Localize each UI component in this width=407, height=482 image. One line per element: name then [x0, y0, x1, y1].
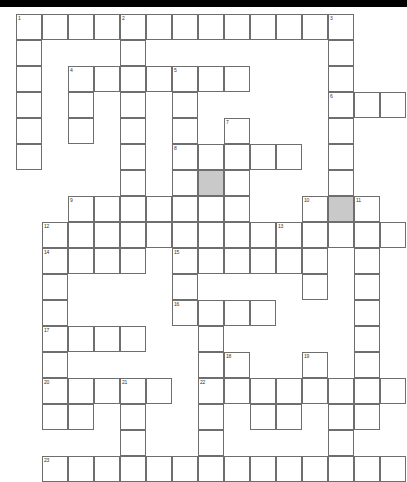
crossword-cell[interactable]: [302, 14, 328, 40]
crossword-cell[interactable]: [328, 144, 354, 170]
crossword-cell-7[interactable]: 7: [224, 118, 250, 144]
crossword-cell[interactable]: [198, 300, 224, 326]
crossword-cell[interactable]: [250, 14, 276, 40]
crossword-cell[interactable]: [302, 248, 328, 274]
crossword-cell[interactable]: [198, 170, 224, 196]
crossword-cell-23[interactable]: 23: [42, 456, 68, 482]
crossword-cell[interactable]: [94, 378, 120, 404]
crossword-cell[interactable]: [120, 40, 146, 66]
crossword-cell[interactable]: [198, 248, 224, 274]
crossword-cell-12[interactable]: 12: [42, 222, 68, 248]
crossword-cell[interactable]: [380, 378, 406, 404]
crossword-cell[interactable]: [380, 456, 406, 482]
crossword-cell[interactable]: [120, 170, 146, 196]
crossword-cell[interactable]: [328, 40, 354, 66]
crossword-cell[interactable]: [224, 248, 250, 274]
crossword-cell[interactable]: [94, 66, 120, 92]
crossword-cell[interactable]: [146, 196, 172, 222]
crossword-cell[interactable]: [354, 404, 380, 430]
crossword-cell[interactable]: [146, 14, 172, 40]
crossword-cell[interactable]: [120, 456, 146, 482]
crossword-cell[interactable]: [94, 222, 120, 248]
crossword-cell[interactable]: [172, 170, 198, 196]
crossword-cell[interactable]: [120, 196, 146, 222]
crossword-cell[interactable]: [198, 352, 224, 378]
crossword-cell[interactable]: [302, 274, 328, 300]
crossword-cell[interactable]: [276, 248, 302, 274]
crossword-cell[interactable]: [94, 196, 120, 222]
crossword-cell[interactable]: [120, 404, 146, 430]
crossword-cell[interactable]: [198, 196, 224, 222]
crossword-cell[interactable]: [198, 404, 224, 430]
crossword-cell[interactable]: [68, 248, 94, 274]
crossword-cell-14[interactable]: 14: [42, 248, 68, 274]
crossword-cell[interactable]: [16, 66, 42, 92]
crossword-cell[interactable]: [146, 456, 172, 482]
crossword-cell[interactable]: [146, 378, 172, 404]
crossword-cell-20[interactable]: 20: [42, 378, 68, 404]
crossword-cell-2[interactable]: 2: [120, 14, 146, 40]
crossword-cell[interactable]: [380, 222, 406, 248]
crossword-cell-8[interactable]: 8: [172, 144, 198, 170]
crossword-cell[interactable]: [354, 378, 380, 404]
crossword-cell[interactable]: [68, 326, 94, 352]
crossword-cell[interactable]: [328, 430, 354, 456]
crossword-cell[interactable]: [276, 144, 302, 170]
crossword-cell[interactable]: [120, 430, 146, 456]
crossword-cell[interactable]: [250, 300, 276, 326]
crossword-cell[interactable]: [354, 300, 380, 326]
crossword-cell[interactable]: [354, 248, 380, 274]
crossword-cell[interactable]: [42, 274, 68, 300]
crossword-cell[interactable]: [354, 456, 380, 482]
crossword-cell[interactable]: [94, 14, 120, 40]
crossword-cell[interactable]: [172, 196, 198, 222]
crossword-cell-9[interactable]: 9: [68, 196, 94, 222]
crossword-cell-21[interactable]: 21: [120, 378, 146, 404]
crossword-cell[interactable]: [94, 326, 120, 352]
crossword-cell[interactable]: [276, 404, 302, 430]
crossword-cell-18[interactable]: 18: [224, 352, 250, 378]
crossword-cell[interactable]: [250, 456, 276, 482]
crossword-cell-6[interactable]: 6: [328, 92, 354, 118]
crossword-cell[interactable]: [302, 456, 328, 482]
crossword-cell[interactable]: [224, 170, 250, 196]
crossword-cell[interactable]: [328, 456, 354, 482]
crossword-cell[interactable]: [302, 378, 328, 404]
crossword-cell[interactable]: [120, 326, 146, 352]
crossword-cell[interactable]: [68, 404, 94, 430]
crossword-cell[interactable]: [198, 326, 224, 352]
crossword-cell[interactable]: [120, 248, 146, 274]
crossword-cell[interactable]: [276, 378, 302, 404]
crossword-cell[interactable]: [42, 300, 68, 326]
crossword-cell[interactable]: [276, 14, 302, 40]
crossword-cell[interactable]: [250, 248, 276, 274]
crossword-cell[interactable]: [224, 300, 250, 326]
crossword-cell[interactable]: [328, 222, 354, 248]
crossword-cell[interactable]: [224, 378, 250, 404]
crossword-cell-3[interactable]: 3: [328, 14, 354, 40]
crossword-cell[interactable]: [224, 144, 250, 170]
crossword-cell-1[interactable]: 1: [16, 14, 42, 40]
crossword-cell[interactable]: [68, 456, 94, 482]
crossword-cell[interactable]: [68, 14, 94, 40]
crossword-cell[interactable]: [224, 66, 250, 92]
crossword-cell[interactable]: [328, 196, 354, 222]
crossword-cell[interactable]: [120, 118, 146, 144]
crossword-cell[interactable]: [250, 378, 276, 404]
crossword-cell-19[interactable]: 19: [302, 352, 328, 378]
crossword-cell[interactable]: [354, 326, 380, 352]
crossword-cell[interactable]: [42, 14, 68, 40]
crossword-cell[interactable]: [354, 92, 380, 118]
crossword-cell-22[interactable]: 22: [198, 378, 224, 404]
crossword-cell[interactable]: [172, 92, 198, 118]
crossword-cell[interactable]: [328, 378, 354, 404]
crossword-cell[interactable]: [94, 456, 120, 482]
crossword-cell[interactable]: [328, 118, 354, 144]
crossword-cell[interactable]: [198, 222, 224, 248]
crossword-cell[interactable]: [16, 118, 42, 144]
crossword-cell[interactable]: [16, 40, 42, 66]
crossword-cell[interactable]: [172, 118, 198, 144]
crossword-cell[interactable]: [68, 378, 94, 404]
crossword-cell[interactable]: [276, 456, 302, 482]
crossword-cell[interactable]: [172, 222, 198, 248]
